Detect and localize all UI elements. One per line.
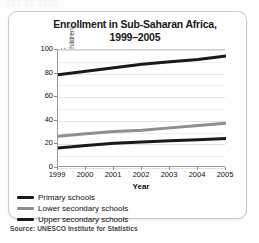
data-series-layer: [58, 50, 226, 168]
series-line: [58, 56, 226, 75]
x-tick-mark: [225, 167, 226, 170]
x-tick-mark: [85, 167, 86, 170]
source-note: Source: UNESCO Institute for Statistics: [10, 225, 138, 232]
x-tick-label: 2004: [182, 170, 212, 179]
legend-swatch-icon: [17, 196, 34, 200]
x-tick-label: 2000: [70, 170, 100, 179]
x-tick-label: 2002: [126, 170, 156, 179]
x-tick-label: 2001: [98, 170, 128, 179]
x-tick-label: 2005: [210, 170, 240, 179]
legend-item[interactable]: Lower secondary schools: [17, 203, 217, 214]
chart-figure-panel: Enrollment in Sub-Saharan Africa, 1999–2…: [8, 11, 247, 219]
chart-title-line2: 1999–2005: [110, 31, 161, 43]
y-tick-label: 20: [33, 139, 53, 147]
y-tick-label: 40: [33, 116, 53, 124]
legend-label: Lower secondary schools: [38, 204, 128, 213]
x-tick-mark: [57, 167, 58, 170]
legend-item[interactable]: Primary schools: [17, 192, 217, 203]
legend-item[interactable]: Upper secondary schools: [17, 214, 217, 225]
legend-label: Upper secondary schools: [38, 215, 128, 224]
y-tick-label: 60: [33, 92, 53, 100]
legend-label: Primary schools: [38, 193, 95, 202]
x-tick-mark: [197, 167, 198, 170]
y-tick-label: 100: [33, 45, 53, 53]
x-axis-label: Year: [57, 182, 225, 191]
legend-swatch-icon: [17, 218, 34, 222]
series-line: [58, 139, 226, 148]
plot-area: [57, 49, 225, 167]
x-tick-mark: [169, 167, 170, 170]
cut-off-text: ░░░ ░░ ░░░░: [6, 0, 59, 7]
x-tick-mark: [141, 167, 142, 170]
chart-legend: Primary schoolsLower secondary schoolsUp…: [17, 192, 217, 225]
series-line: [58, 123, 226, 136]
y-tick-label: 80: [33, 69, 53, 77]
x-tick-label: 2003: [154, 170, 184, 179]
legend-swatch-icon: [17, 207, 34, 211]
x-tick-label: 1999: [42, 170, 72, 179]
cut-off-text-strip: ░░░ ░░ ░░░░: [0, 0, 259, 10]
x-tick-mark: [113, 167, 114, 170]
